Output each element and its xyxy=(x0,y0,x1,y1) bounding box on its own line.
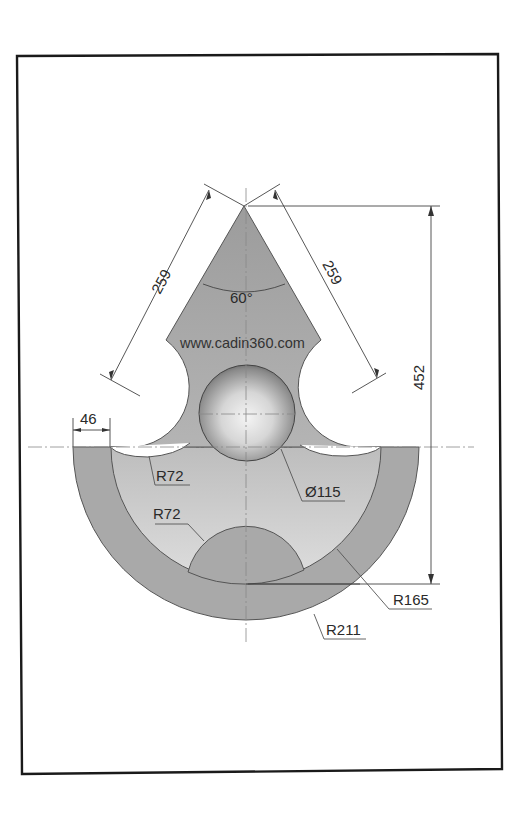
right-259-extension-bottom xyxy=(352,373,386,393)
dim-height-452: 452 xyxy=(410,365,427,390)
dim-ring-46: 46 xyxy=(80,410,97,427)
dim-r165: R165 xyxy=(393,591,429,608)
arrow-icon xyxy=(428,574,434,584)
dim-r211: R211 xyxy=(326,621,361,638)
dim-lower-r72: R72 xyxy=(153,505,181,522)
arrow-icon xyxy=(102,428,110,432)
cad-drawing: 259 259 60° www.cadin360.com 452 46 R72 … xyxy=(0,0,523,837)
arrow-icon xyxy=(73,428,81,432)
dim-left-259: 259 xyxy=(148,266,175,296)
watermark-text: www.cadin360.com xyxy=(179,335,305,351)
arrow-icon xyxy=(428,206,434,216)
dim-sphere-115: Ø115 xyxy=(305,483,341,500)
dim-angle-60: 60° xyxy=(230,289,253,306)
dim-upper-r72: R72 xyxy=(156,467,184,484)
dim-right-259: 259 xyxy=(319,257,346,287)
left-259-extension-bottom xyxy=(100,374,140,396)
